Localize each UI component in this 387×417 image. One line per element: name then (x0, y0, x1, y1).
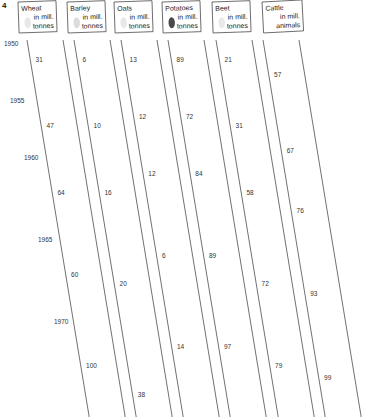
sack-icon (267, 337, 273, 349)
sack-icon (276, 347, 282, 359)
sack-icon (143, 318, 149, 330)
sack-icon (266, 246, 272, 258)
value-label: 99 (324, 374, 332, 381)
sack-icon (176, 318, 182, 330)
sack-icon (264, 318, 270, 330)
sack-icon (231, 236, 237, 248)
sack-icon (77, 246, 83, 258)
sack-icon (170, 154, 176, 166)
value-label: 76 (297, 207, 305, 214)
sack-icon (46, 97, 52, 109)
sack-icon (150, 318, 156, 330)
value-label: 64 (57, 189, 65, 196)
sack-icon (249, 97, 255, 109)
header-unit-line1: in mill. (280, 12, 300, 20)
sack-icon (84, 328, 90, 340)
cell-oats-1965: 6 (156, 236, 176, 258)
cell-potatoes-1960: 84 (189, 154, 223, 176)
sack-icon (253, 164, 259, 176)
value-label: 13 (130, 56, 138, 63)
cell-wheat-1955: 47 (39, 97, 73, 129)
sack-icon (252, 246, 258, 258)
sack-icon (255, 265, 261, 277)
sack-icon (110, 246, 116, 258)
sack-icon (103, 318, 109, 330)
sack-icon (137, 366, 143, 378)
sack-icon (225, 40, 231, 52)
sack-icon (240, 173, 246, 185)
cell-wheat-1960: 64 (48, 154, 84, 195)
sack-icon (95, 154, 101, 166)
cow-icon (299, 262, 333, 285)
value-label: 31 (36, 56, 44, 63)
sack-icon (272, 236, 278, 248)
header-cattle: Cattlein mill.animals (262, 0, 304, 33)
sack-icon (144, 40, 150, 52)
sack-icon (105, 328, 111, 340)
header-oats: Oatsin mill.tonnes (114, 1, 153, 33)
sack-icon (237, 154, 243, 166)
sack-icon (67, 97, 73, 109)
sack-icon (54, 107, 60, 119)
sack-icon (82, 318, 88, 330)
cell-oats-1970: 14 (169, 318, 203, 350)
cell-beet-1955: 31 (228, 97, 262, 129)
sack-icon (134, 347, 140, 359)
sack-icon (259, 246, 265, 258)
value-label: 47 (47, 122, 55, 129)
sack-icon (87, 347, 93, 359)
sack-icon (268, 255, 274, 267)
cell-oats-1960: 12 (142, 154, 176, 176)
header-beet: Beetin mill.tonnes (212, 1, 251, 33)
sack-icon (137, 40, 143, 52)
sack-icon (154, 97, 160, 109)
sack-icon (50, 40, 56, 52)
sack-icon (232, 40, 238, 52)
year-label-1960: 1960 (24, 154, 39, 161)
sack-icon (76, 236, 82, 248)
sack-icon (279, 236, 285, 248)
sack-icon (190, 318, 196, 330)
header-wheat: Wheatin mill.tonnes (18, 1, 57, 33)
year-label-1970: 1970 (54, 318, 69, 325)
sack-icon (156, 236, 162, 248)
sack-icon (148, 347, 154, 359)
sack-icon (57, 40, 63, 52)
sack-icon (62, 154, 68, 166)
sack-icon (90, 236, 96, 248)
sack-icon (210, 154, 216, 166)
sack-icon (132, 375, 138, 387)
cell-potatoes-1965: 89 (203, 236, 237, 258)
sack-icon (51, 173, 57, 185)
sack-icon (124, 328, 130, 340)
sack-icon (60, 97, 66, 109)
sack-icon (64, 164, 70, 176)
sack-icon (111, 164, 117, 176)
strip-wheat (27, 40, 125, 417)
sack-icon (282, 255, 288, 267)
sack-icon (93, 97, 99, 109)
sack-icon (36, 40, 42, 52)
sack-icon (137, 236, 143, 248)
sack-icon (136, 356, 142, 368)
sack-icon (239, 40, 245, 52)
sack-icon (136, 318, 142, 330)
value-label: 58 (246, 189, 254, 196)
sack-icon (116, 236, 122, 248)
cell-beet-1970: 79 (264, 318, 302, 369)
sack-icon (144, 366, 150, 378)
cell-potatoes-1950: 89 (170, 40, 204, 62)
sack-icon (247, 173, 253, 185)
header-title: Oats (117, 4, 133, 12)
sack-icon (183, 318, 189, 330)
cow-icon (301, 251, 335, 274)
sack-icon (124, 246, 130, 258)
sack-icon (84, 246, 90, 258)
sack-icon (85, 337, 91, 349)
sack-icon (295, 337, 301, 349)
sack-icon (145, 328, 151, 340)
sack-icon (262, 265, 268, 277)
sack-icon (210, 236, 216, 248)
sack-icon (184, 40, 190, 52)
sack-icon (170, 236, 176, 248)
